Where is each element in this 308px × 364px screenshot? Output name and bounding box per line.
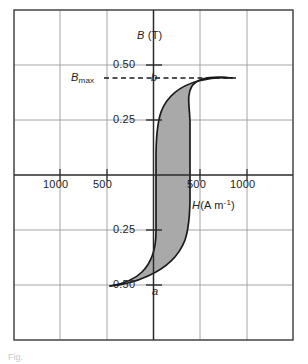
x-tick-label-1000-positive: 1000 [230, 179, 255, 190]
y-axis-unit: (T) [148, 29, 163, 41]
x-axis-symbol: H [192, 199, 200, 211]
y-tick-label-0.25-negative: 0.25 [113, 224, 135, 235]
point-a-label: a [152, 286, 158, 297]
x-axis-unit-close: ) [231, 199, 235, 211]
y-axis-title: B (T) [137, 30, 162, 41]
x-axis-title: H(A m-1) [192, 199, 235, 211]
x-tick-label-1000-negative: 1000 [43, 179, 68, 190]
x-axis-unit-open: (A m [200, 199, 223, 211]
b-max-symbol: B [71, 71, 79, 83]
y-tick-label-0.50-negative: 0.50 [113, 279, 135, 290]
x-tick-label-500-negative: 500 [93, 179, 112, 190]
point-b-label: b [151, 72, 157, 83]
y-tick-label-0.50-positive: 0.50 [113, 59, 135, 70]
x-tick-label-500-positive: 500 [187, 179, 206, 190]
y-tick-label-0.25-positive: 0.25 [113, 114, 135, 125]
figure-hysteresis-loop: B (T) 0.50 0.25 0.25 0.50 1000 500 500 1… [0, 0, 308, 364]
figure-caption-fragment: Fig. [8, 352, 300, 362]
y-axis-symbol: B [137, 29, 145, 41]
b-max-label: Bmax [71, 72, 94, 85]
x-axis-unit-exponent: -1 [224, 198, 232, 207]
b-max-subscript: max [79, 76, 95, 85]
